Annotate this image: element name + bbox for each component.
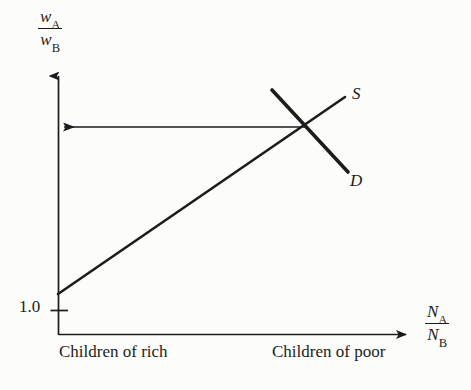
y-axis-fraction: wA wB (38, 8, 62, 49)
x-denominator-variable: N (427, 325, 438, 344)
x-numerator-variable: N (427, 302, 438, 321)
y-axis-tick-label: 1.0 (19, 298, 40, 315)
y-axis-numerator: wA (38, 8, 62, 27)
y-axis-label: wA wB (38, 8, 62, 49)
y-denominator-variable: w (40, 30, 51, 49)
y-denominator-subscript: B (52, 41, 60, 55)
x-axis-numerator: NA (425, 303, 449, 322)
y-numerator-variable: w (40, 7, 51, 26)
caption-children-of-rich: Children of rich (59, 343, 168, 360)
x-denominator-subscript: B (439, 336, 447, 350)
x-numerator-subscript: A (438, 313, 447, 327)
y-axis-denominator: wB (38, 30, 62, 49)
x-axis-label: NA NB (425, 303, 449, 344)
y-numerator-subscript: A (51, 18, 60, 32)
x-axis-denominator: NB (425, 325, 449, 344)
supply-curve-label: S (352, 85, 361, 102)
plot-canvas (0, 0, 471, 390)
figure-root: wA wB NA NB 1.0 S D Children of rich Chi… (0, 0, 471, 390)
demand-curve-label: D (350, 172, 362, 189)
x-axis-fraction: NA NB (425, 303, 449, 344)
caption-children-of-poor: Children of poor (272, 343, 385, 360)
